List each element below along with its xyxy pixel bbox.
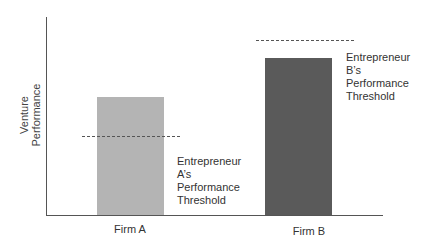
threshold-label-a: Entrepreneur A’s Performance Threshold	[177, 155, 241, 207]
threshold-label-b: Entrepreneur B’s Performance Threshold	[346, 51, 410, 103]
bar-firm-a	[97, 97, 164, 215]
threshold-line-a	[82, 136, 180, 137]
y-axis	[46, 17, 47, 216]
x-tick-firm-a: Firm A	[100, 223, 160, 235]
bar-firm-b	[265, 58, 332, 215]
x-axis	[46, 215, 383, 216]
x-tick-firm-b: Firm B	[279, 225, 339, 237]
threshold-line-b	[256, 40, 354, 41]
